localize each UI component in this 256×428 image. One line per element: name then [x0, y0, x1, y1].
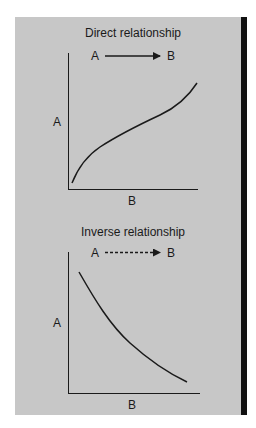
direct-relationship-chart: Direct relationship A B A B	[53, 26, 198, 208]
inverse-y-label: A	[53, 316, 61, 330]
inverse-chart-title: Inverse relationship	[81, 225, 185, 239]
inverse-relationship-chart: Inverse relationship A B A B	[53, 225, 200, 412]
inverse-x-label: B	[128, 398, 136, 412]
direct-x-label: B	[128, 194, 136, 208]
inverse-arrow-to-label: B	[167, 246, 175, 260]
relationship-figure: Direct relationship A B A B Inverse rela…	[0, 0, 256, 428]
direct-y-label: A	[53, 115, 61, 129]
direct-curve	[72, 83, 197, 183]
inverse-curve	[79, 272, 187, 382]
direct-arrow-to-label: B	[167, 49, 175, 63]
inverse-arrow-from-label: A	[91, 246, 99, 260]
direct-chart-title: Direct relationship	[85, 26, 181, 40]
direct-arrow-from-label: A	[91, 49, 99, 63]
